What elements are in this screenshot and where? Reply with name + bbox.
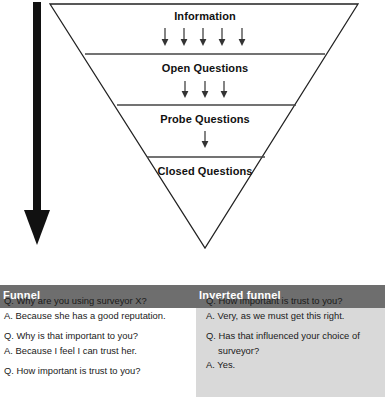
- flow-arrow-icon: [24, 2, 50, 245]
- arrow-group-information: [162, 28, 246, 46]
- arrow-group-open-questions: [182, 81, 228, 98]
- qa-line: A. Very, as we must get this right.: [206, 309, 382, 324]
- qa-line: A. Because she has a good reputation.: [4, 309, 192, 324]
- qa-line: Q. How important is trust to you?: [206, 294, 382, 309]
- qa-list-inverted-funnel: Q. How important is trust to you? A. Ver…: [206, 294, 382, 373]
- funnel-diagram: Information Open Questions Probe Questio…: [0, 0, 385, 262]
- funnel-diagram-graphic: [0, 0, 385, 262]
- funnel-section-label-probe-questions: Probe Questions: [85, 113, 325, 125]
- qa-line: Q. Why are you using surveyor X?: [4, 294, 192, 309]
- funnel-comparison-table: Funnel Inverted funnel Q. Why are you us…: [0, 285, 385, 397]
- qa-line: Q. Has that influenced your choice of: [206, 329, 382, 344]
- qa-list-funnel: Q. Why are you using surveyor X? A. Beca…: [4, 294, 192, 379]
- qa-line: Q. Why is that important to you?: [4, 329, 192, 344]
- funnel-section-label-closed-questions: Closed Questions: [85, 165, 325, 177]
- qa-line: A. Because I feel I can trust her.: [4, 344, 192, 359]
- qa-line: A. Yes.: [206, 358, 382, 373]
- funnel-section-label-open-questions: Open Questions: [85, 62, 325, 74]
- funnel-section-label-information: Information: [85, 10, 325, 22]
- arrow-group-probe-questions: [202, 131, 209, 148]
- qa-line: Q. How important is trust to you?: [4, 364, 192, 379]
- qa-line: surveyor?: [206, 344, 382, 359]
